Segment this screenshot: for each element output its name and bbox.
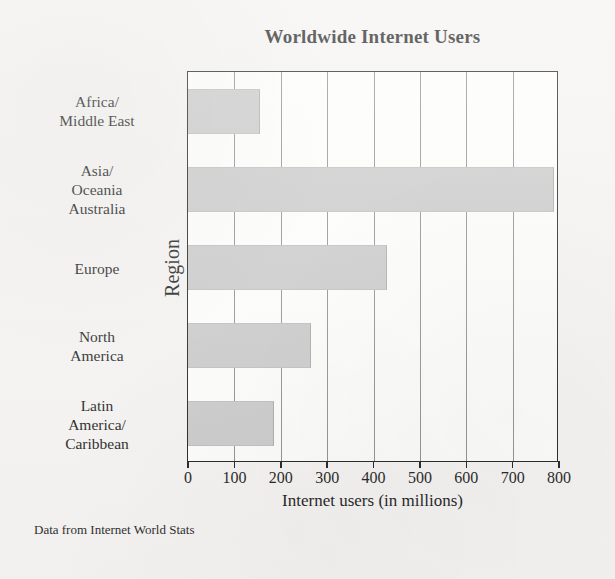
x-tick-label-600: 600 (441, 469, 491, 487)
y-tick-label-line: America (22, 346, 172, 365)
x-tick-label-700: 700 (488, 469, 538, 487)
y-tick-label-line: Europe (22, 258, 172, 277)
y-tick-label-line: Asia/ (22, 161, 172, 180)
y-tick-label-line: Latin (22, 395, 172, 414)
x-tick-label-800: 800 (534, 469, 584, 487)
y-tick-label-line: Africa/ (22, 92, 172, 111)
y-tick-label-line: North (22, 327, 172, 346)
bar (188, 401, 274, 446)
source-note: Data from Internet World Stats (34, 522, 194, 538)
bar (188, 245, 387, 290)
y-tick-label: Europe (22, 258, 172, 277)
y-tick-label: NorthAmerica (22, 327, 172, 365)
x-tick-800 (558, 461, 560, 468)
y-tick-label: Asia/OceaniaAustralia (22, 161, 172, 218)
y-tick-label-line: Australia (22, 199, 172, 218)
bar (188, 89, 260, 134)
x-tick-label-400: 400 (349, 469, 399, 487)
y-axis-title: Region (161, 239, 184, 297)
y-tick-label: LatinAmerica/Caribbean (22, 395, 172, 452)
x-tick-label-100: 100 (209, 469, 259, 487)
bar (188, 323, 311, 368)
x-tick-label-500: 500 (395, 469, 445, 487)
x-tick-label-300: 300 (302, 469, 352, 487)
y-tick-label: Africa/Middle East (22, 92, 172, 130)
x-tick-label-0: 0 (163, 469, 213, 487)
x-tick-label-200: 200 (256, 469, 306, 487)
y-tick-label-line: Middle East (22, 111, 172, 130)
chart-title: Worldwide Internet Users (187, 26, 558, 48)
bars-layer (188, 72, 557, 461)
y-tick-label-line: Oceania (22, 180, 172, 199)
y-tick-label-line: Caribbean (22, 433, 172, 452)
x-axis-tick-labels: 0100200300400500600700800 (188, 461, 557, 483)
bar-chart-figure: Worldwide Internet Users Africa/Middle E… (0, 0, 615, 579)
y-tick-label-line: America/ (22, 414, 172, 433)
plot-area: Africa/Middle EastAsia/OceaniaAustraliaE… (187, 71, 558, 462)
x-axis-title: Internet users (in millions) (188, 491, 557, 511)
bar (188, 167, 554, 212)
